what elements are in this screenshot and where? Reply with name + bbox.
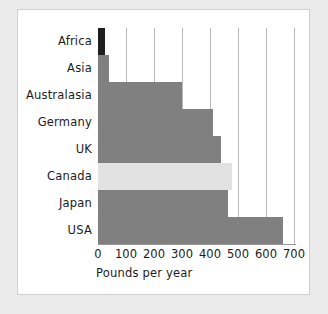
bar-row (98, 217, 294, 244)
bar-row (98, 82, 294, 109)
y-tick-label-asia: Asia (67, 61, 92, 75)
x-tick-label-600: 600 (255, 247, 277, 261)
y-tick-label-australasia: Australasia (26, 88, 92, 102)
x-axis-line (98, 244, 296, 245)
y-tick-label-usa: USA (68, 223, 92, 237)
figure-root: AfricaAsiaAustralasiaGermanyUKCanadaJapa… (0, 0, 328, 314)
bar-asia (98, 55, 109, 82)
x-tick-label-400: 400 (199, 247, 221, 261)
y-axis-category-labels: AfricaAsiaAustralasiaGermanyUKCanadaJapa… (18, 28, 96, 244)
x-tick-label-500: 500 (227, 247, 249, 261)
x-tick-label-700: 700 (283, 247, 305, 261)
x-tick-label-300: 300 (171, 247, 193, 261)
x-tick-label-0: 0 (94, 247, 101, 261)
bar-japan (98, 190, 228, 217)
chart-card: AfricaAsiaAustralasiaGermanyUKCanadaJapa… (17, 9, 310, 295)
x-axis-tick-labels: 0100200300400500600700 (18, 247, 311, 265)
bar-row (98, 163, 294, 190)
x-tick-label-100: 100 (115, 247, 137, 261)
plot-area (98, 28, 294, 244)
bar-australasia (98, 82, 182, 109)
x-tick-label-200: 200 (143, 247, 165, 261)
y-tick-label-canada: Canada (47, 169, 92, 183)
y-tick-label-germany: Germany (38, 115, 92, 129)
y-tick-label-africa: Africa (58, 34, 92, 48)
bar-row (98, 136, 294, 163)
bar-uk (98, 136, 221, 163)
bar-row (98, 109, 294, 136)
bar-canada (98, 163, 232, 190)
x-axis-title: Pounds per year (96, 266, 193, 280)
gridline-700 (294, 28, 295, 244)
y-tick-label-uk: UK (76, 142, 92, 156)
bar-row (98, 190, 294, 217)
bar-row (98, 55, 294, 82)
bar-row (98, 28, 294, 55)
bar-africa (98, 28, 105, 55)
y-tick-label-japan: Japan (59, 196, 92, 210)
bar-germany (98, 109, 213, 136)
bar-usa (98, 217, 283, 244)
